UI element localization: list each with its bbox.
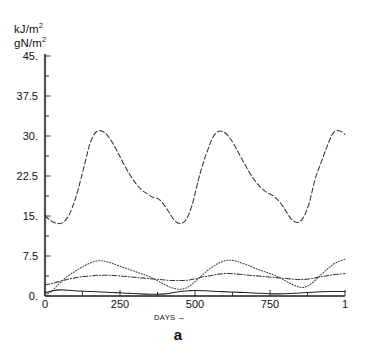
chart-figure: kJ/m2 gN/m2 0.7.515.22.530.37.545. 02505…	[0, 0, 366, 353]
x-tick-label: 1	[342, 298, 348, 310]
y-tick-label: 30.	[4, 130, 38, 142]
y-axis-tick-labels: 0.7.515.22.530.37.545.	[0, 0, 38, 353]
y-tick-label: 45.	[4, 50, 38, 62]
y-tick-label: 0.	[4, 290, 38, 302]
panel-label: a	[174, 326, 182, 343]
data-series-dashed	[45, 131, 345, 224]
y-tick-label: 7.5	[4, 250, 38, 262]
data-series-dash-dot	[45, 274, 345, 285]
y-tick-label: 37.5	[4, 90, 38, 102]
x-tick-label: 0	[42, 298, 48, 310]
x-axis-caption: DAYS→	[154, 313, 185, 322]
x-tick-label: 500	[186, 298, 204, 310]
x-tick-label: 250	[111, 298, 129, 310]
data-series-dotted	[45, 259, 345, 295]
plot-area	[0, 0, 366, 353]
x-tick-label: 750	[261, 298, 279, 310]
x-axis-arrow-icon: →	[177, 313, 185, 322]
y-tick-label: 22.5	[4, 170, 38, 182]
y-tick-label: 15.	[4, 210, 38, 222]
